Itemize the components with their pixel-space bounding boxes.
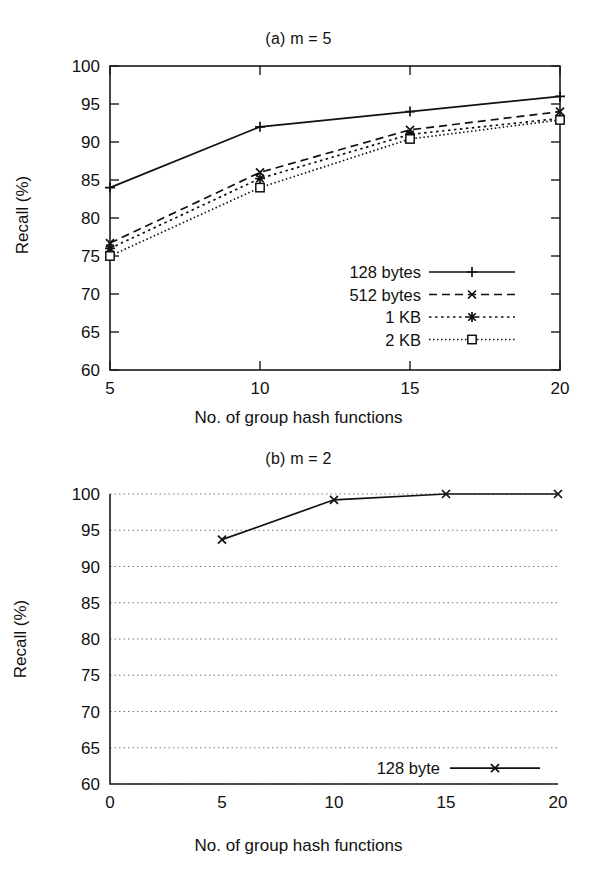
marker-square: [406, 135, 414, 143]
panel-b-y-tick-label: 100: [72, 485, 100, 504]
marker-square: [556, 116, 564, 124]
panel-a-series-line-2: [110, 118, 560, 248]
panel-a-x-tick-label: 10: [251, 379, 270, 398]
panel-a-y-tick-label: 60: [81, 361, 100, 380]
panel-b-x-tick-label: 0: [105, 793, 114, 812]
panel-b-y-tick-label: 75: [81, 666, 100, 685]
panel-a-plot-frame: [110, 66, 560, 370]
panel-b-y-tick-label: 65: [81, 739, 100, 758]
panel-a-y-tick-label: 95: [81, 95, 100, 114]
panel-a-y-tick-label: 100: [72, 57, 100, 76]
marker-plus: [405, 107, 415, 117]
marker-square: [256, 183, 264, 191]
panel-b-y-tick-label: 80: [81, 630, 100, 649]
panel-a-series-line-3: [110, 120, 560, 256]
panel-a-x-tick-label: 20: [551, 379, 570, 398]
panel-b-plot: 606570758085909510005101520128 byte: [0, 444, 597, 834]
panel-b-x-axis-label: No. of group hash functions: [0, 836, 597, 856]
panel-a-y-tick-label: 75: [81, 247, 100, 266]
panel-a-x-axis-label: No. of group hash functions: [0, 408, 597, 428]
panel-a-series-line-1: [110, 112, 560, 243]
panel-b-x-tick-label: 10: [325, 793, 344, 812]
panel-a-legend-label-1: 512 bytes: [349, 286, 421, 304]
panel-a-x-tick-label: 15: [401, 379, 420, 398]
marker-square: [468, 335, 476, 343]
panel-b-x-tick-label: 5: [217, 793, 226, 812]
panel-a-y-tick-label: 85: [81, 171, 100, 190]
panel-a-y-tick-label: 90: [81, 133, 100, 152]
panel-a-y-tick-label: 70: [81, 285, 100, 304]
chart-panel-b: (b) m = 2 Recall (%) 6065707580859095100…: [0, 444, 597, 888]
marker-cross: [218, 536, 226, 544]
panel-a-series-line-0: [110, 96, 560, 187]
panel-b-y-tick-label: 60: [81, 775, 100, 794]
panel-b-y-tick-label: 85: [81, 594, 100, 613]
panel-b-y-tick-label: 70: [81, 703, 100, 722]
panel-a-x-tick-label: 5: [105, 379, 114, 398]
marker-plus: [555, 91, 565, 101]
panel-a-y-tick-label: 65: [81, 323, 100, 342]
panel-a-y-tick-label: 80: [81, 209, 100, 228]
marker-star: [255, 173, 265, 183]
panel-a-legend-label-0: 128 bytes: [349, 263, 421, 281]
panel-b-x-tick-label: 15: [437, 793, 456, 812]
panel-b-y-tick-label: 90: [81, 558, 100, 577]
panel-a-legend-label-3: 2 KB: [385, 331, 421, 349]
panel-b-axis: [110, 494, 558, 784]
marker-plus: [467, 267, 477, 277]
marker-star: [467, 312, 477, 322]
panel-b-legend-label-0: 128 byte: [377, 759, 440, 777]
marker-plus: [105, 183, 115, 193]
panel-a-legend-label-2: 1 KB: [385, 308, 421, 326]
panel-b-x-tick-label: 20: [549, 793, 568, 812]
panel-b-y-tick-label: 95: [81, 521, 100, 540]
chart-panel-a: (a) m = 5 Recall (%) 6065707580859095100…: [0, 0, 597, 444]
marker-plus: [255, 122, 265, 132]
marker-square: [106, 252, 114, 260]
panel-b-series-line-0: [222, 494, 558, 540]
panel-a-plot: 60657075808590951005101520128 bytes512 b…: [0, 0, 597, 400]
